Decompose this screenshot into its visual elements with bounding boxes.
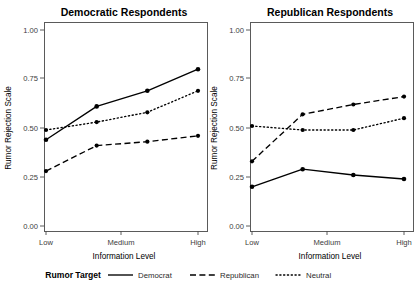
legend-title: Rumor Target bbox=[45, 270, 101, 280]
legend-label-republican: Republican bbox=[220, 271, 259, 280]
legend-item-democrat[interactable]: Democrat bbox=[108, 271, 173, 280]
x-tick-label-high-right: High bbox=[396, 238, 412, 247]
chart-legend: Rumor Target Democrat Republican Neutral bbox=[45, 270, 331, 280]
panel-title-republican: Republican Respondents bbox=[267, 6, 393, 18]
legend-item-neutral[interactable]: Neutral bbox=[276, 271, 331, 280]
panel-title-democratic: Democratic Respondents bbox=[61, 6, 188, 18]
y-tick-label-4-right: 1.00 bbox=[229, 26, 244, 35]
legend-label-democrat: Democrat bbox=[138, 271, 173, 280]
series-neutral-right bbox=[250, 116, 406, 132]
y-tick-label-4-left: 1.00 bbox=[23, 26, 38, 35]
y-tick-label-2-right: 0.50 bbox=[229, 124, 244, 133]
panel-border-right bbox=[251, 23, 414, 232]
y-tick-label-3-right: 0.75 bbox=[229, 74, 244, 83]
y-tick-label-2-left: 0.50 bbox=[23, 124, 38, 133]
series-democrat-left bbox=[44, 67, 201, 142]
y-tick-label-3-left: 0.75 bbox=[23, 74, 38, 83]
x-axis-title-right: Information Level bbox=[299, 252, 362, 261]
chart-figure: Democratic Respondents Rumor Rejection S… bbox=[0, 0, 416, 282]
legend-item-republican[interactable]: Republican bbox=[190, 271, 259, 280]
x-tick-label-medium-left: Medium bbox=[107, 238, 134, 247]
x-tick-label-low-left: Low bbox=[39, 238, 53, 247]
legend-label-neutral: Neutral bbox=[306, 271, 331, 280]
x-tick-label-high-left: High bbox=[190, 238, 206, 247]
series-democrat-right bbox=[250, 167, 407, 189]
y-tick-marks-left bbox=[40, 30, 44, 226]
series-republican-right bbox=[250, 95, 406, 164]
series-republican-left bbox=[44, 134, 200, 174]
y-tick-label-0-left: 0.00 bbox=[23, 222, 38, 231]
y-axis-title-left: Rumor Rejection Scale bbox=[4, 86, 13, 170]
y-axis-title-right: Rumor Rejection Scale bbox=[210, 86, 219, 170]
panel-democratic-respondents: Democratic Respondents Rumor Rejection S… bbox=[4, 6, 208, 261]
y-tick-label-1-right: 0.25 bbox=[229, 173, 244, 182]
x-axis-title-left: Information Level bbox=[93, 252, 156, 261]
x-tick-label-medium-right: Medium bbox=[313, 238, 340, 247]
panel-republican-respondents: Republican Respondents Rumor Rejection S… bbox=[210, 6, 414, 261]
y-tick-marks-right bbox=[246, 30, 250, 226]
y-tick-label-0-right: 0.00 bbox=[229, 222, 244, 231]
chart-svg: Democratic Respondents Rumor Rejection S… bbox=[0, 0, 416, 282]
y-tick-label-1-left: 0.25 bbox=[23, 173, 38, 182]
x-tick-label-low-right: Low bbox=[245, 238, 259, 247]
